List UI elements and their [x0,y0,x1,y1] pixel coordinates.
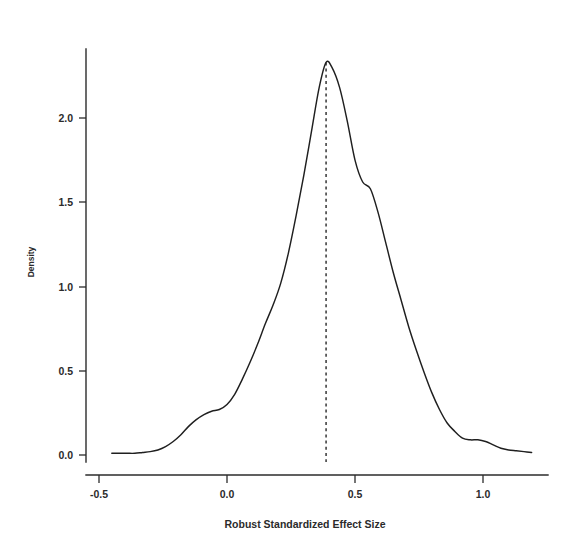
density-plot-figure: 2.0 1.5 1.0 0.5 0.0 -0.5 0.0 0.5 1.0 Rob… [0,0,574,558]
y-tick-label-4: 2.0 [58,112,73,124]
x-tick-label-2: 0.5 [348,488,363,500]
y-tick-label-2: 1.0 [58,281,73,293]
y-axis-ticks [79,118,86,455]
x-axis-ticks [99,475,483,483]
y-tick-label-3: 1.5 [58,196,73,208]
x-tick-label-0: -0.5 [90,488,108,500]
x-tick-label-1: 0.0 [220,488,235,500]
y-tick-label-1: 0.5 [58,365,73,377]
y-axis-title: Density [26,246,36,277]
density-curve [112,61,532,453]
y-tick-label-0: 0.0 [58,449,73,461]
x-tick-label-3: 1.0 [476,488,491,500]
chart-canvas: 2.0 1.5 1.0 0.5 0.0 -0.5 0.0 0.5 1.0 Rob… [0,0,574,558]
x-axis-title: Robust Standardized Effect Size [224,518,385,530]
